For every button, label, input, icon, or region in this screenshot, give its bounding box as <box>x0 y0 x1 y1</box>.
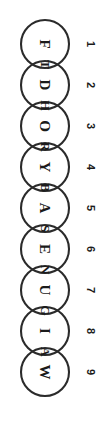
overlap-letter-8-9: A <box>38 346 53 356</box>
center-letter-group: F D O Y A E U I W <box>37 39 53 379</box>
overlap-letter-1-2: T <box>38 59 53 68</box>
overlap-letter-5-6: S <box>38 224 53 232</box>
index-number-7: 7 <box>85 286 97 292</box>
center-letter-5: A <box>37 202 53 213</box>
overlap-letter-7-8: G <box>38 305 53 316</box>
circle-chain-svg: 1 2 3 4 5 6 7 8 9 <box>6 15 102 415</box>
index-number-group: 1 2 3 4 5 6 7 8 9 <box>85 40 97 374</box>
center-letter-2: D <box>37 79 53 90</box>
index-number-9: 9 <box>85 368 97 374</box>
overlap-letter-2-3: H <box>38 100 53 111</box>
center-letter-3: O <box>37 120 53 132</box>
center-letter-6: E <box>37 243 53 253</box>
overlap-letter-6-7: N <box>38 264 53 274</box>
diagram-canvas: 1 2 3 4 5 6 7 8 9 <box>0 0 108 429</box>
index-number-1: 1 <box>85 40 97 46</box>
rotated-diagram-wrapper: 1 2 3 4 5 6 7 8 9 <box>6 15 102 415</box>
index-number-8: 8 <box>85 327 97 333</box>
overlap-letter-4-5: B <box>38 182 53 191</box>
center-letter-9: W <box>37 364 53 379</box>
index-number-3: 3 <box>85 122 97 128</box>
center-letter-8: I <box>37 328 53 334</box>
center-letter-1: F <box>37 39 53 48</box>
index-number-4: 4 <box>85 163 97 170</box>
center-letter-7: U <box>37 284 53 295</box>
center-letter-4: Y <box>37 161 53 172</box>
index-number-2: 2 <box>85 81 97 87</box>
index-number-6: 6 <box>85 245 97 251</box>
overlap-letter-3-4: R <box>38 141 53 151</box>
index-number-5: 5 <box>85 204 97 210</box>
